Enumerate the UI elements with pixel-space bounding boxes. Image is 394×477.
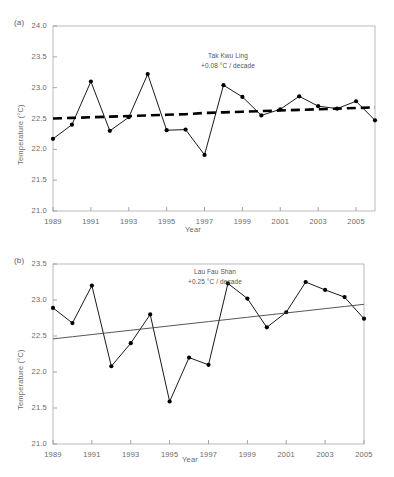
x-tick-label: 1993: [113, 450, 149, 459]
y-tick-label: 22.5: [15, 331, 47, 340]
x-tick-label: 1991: [74, 450, 110, 459]
chart-panel-a: (a) Temperature (°C) Year 21.021.522.022…: [0, 0, 394, 240]
x-tick-label: 2005: [338, 217, 374, 226]
x-tick-label: 2001: [268, 450, 304, 459]
y-tick-label: 22.5: [15, 114, 47, 123]
annotation-trend-rate: +0.08 °C / decade: [180, 61, 276, 71]
x-tick-label: 1997: [191, 450, 227, 459]
x-tick-label: 2001: [262, 217, 298, 226]
annotation-trend-rate: +0.25 °C / decade: [167, 277, 263, 287]
chart-annotation: Tak Kwu Ling+0.08 °C / decade: [180, 51, 276, 71]
chart-annotation: Lau Fau Shan+0.25 °C / decade: [167, 267, 263, 287]
y-tick-label: 22.0: [15, 144, 47, 153]
y-tick-label: 23.5: [15, 52, 47, 61]
x-tick-label: 1999: [224, 217, 260, 226]
y-tick-label: 21.0: [15, 206, 47, 215]
y-tick-label: 22.0: [15, 367, 47, 376]
x-tick-label: 2003: [307, 450, 343, 459]
y-tick-label: 23.5: [15, 259, 47, 268]
x-tick-label: 1989: [35, 450, 71, 459]
x-tick-label: 1999: [229, 450, 265, 459]
x-tick-label: 2005: [346, 450, 382, 459]
y-tick-label: 23.0: [15, 83, 47, 92]
y-tick-label: 23.0: [15, 295, 47, 304]
x-tick-label: 1989: [35, 217, 71, 226]
y-tick-label: 21.0: [15, 439, 47, 448]
x-tick-label: 1995: [149, 217, 185, 226]
annotation-station-name: Tak Kwu Ling: [180, 51, 276, 61]
chart-panel-b: (b) Temperature (°C) Year 21.021.522.022…: [0, 240, 394, 477]
plot-area-a: [0, 0, 394, 240]
x-tick-label: 1995: [152, 450, 188, 459]
x-tick-label: 1997: [187, 217, 223, 226]
x-tick-label: 1991: [73, 217, 109, 226]
y-tick-label: 21.5: [15, 403, 47, 412]
annotation-station-name: Lau Fau Shan: [167, 267, 263, 277]
y-tick-label: 21.5: [15, 175, 47, 184]
x-tick-label: 1993: [111, 217, 147, 226]
y-tick-label: 24.0: [15, 21, 47, 30]
x-tick-label: 2003: [300, 217, 336, 226]
